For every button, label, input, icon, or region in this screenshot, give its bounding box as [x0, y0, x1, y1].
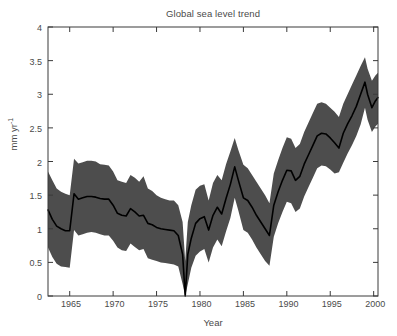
y-tick-label-2: 2 [16, 158, 42, 168]
plot-area [0, 0, 397, 336]
chart-title: Global sea level trend [48, 8, 378, 19]
y-tick-label-0p5: 0.5 [16, 258, 42, 268]
y-tick-label-0: 0 [16, 292, 42, 302]
y-tick-label-4: 4 [16, 23, 42, 33]
y-axis-label-exponent: -1 [7, 118, 14, 124]
x-tick-label-1985: 1985 [225, 299, 265, 309]
y-tick-label-3p5: 3.5 [16, 57, 42, 67]
x-tick-label-2000: 2000 [355, 299, 395, 309]
y-tick-label-1p5: 1.5 [16, 191, 42, 201]
x-tick-label-1975: 1975 [138, 299, 178, 309]
x-tick-label-1990: 1990 [268, 299, 308, 309]
x-axis-label: Year [48, 317, 378, 328]
y-tick-label-1: 1 [16, 225, 42, 235]
x-tick-label-1995: 1995 [312, 299, 352, 309]
x-tick-label-1980: 1980 [181, 299, 221, 309]
x-tick-label-1965: 1965 [51, 299, 91, 309]
y-tick-label-3: 3 [16, 90, 42, 100]
x-tick-label-1970: 1970 [95, 299, 135, 309]
chart-figure: Global sea level trend mm yr-1 Year 0 0.… [0, 0, 397, 336]
y-tick-label-2p5: 2.5 [16, 124, 42, 134]
